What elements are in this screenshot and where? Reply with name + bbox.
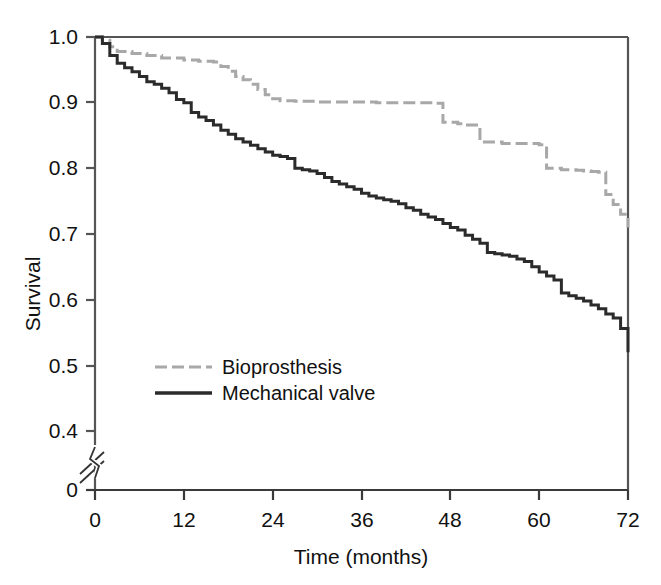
legend-label-bioprosthesis: Bioprosthesis xyxy=(222,356,342,379)
y-tick-label-0-7: 0.7 xyxy=(10,222,78,246)
legend-swatches xyxy=(155,367,212,393)
y-tick-label-0-5: 0.5 xyxy=(10,354,78,378)
x-tick-label-0: 0 xyxy=(65,508,125,532)
y-tick-label-0-8: 0.8 xyxy=(10,156,78,180)
legend-label-mechanical-valve: Mechanical valve xyxy=(222,382,375,405)
x-tick-marks xyxy=(95,490,628,500)
x-tick-label-72: 72 xyxy=(598,508,658,532)
y-tick-label-zero: 0 xyxy=(10,478,78,502)
x-tick-label-12: 12 xyxy=(154,508,214,532)
x-tick-label-48: 48 xyxy=(420,508,480,532)
x-axis-title: Time (months) xyxy=(261,545,461,569)
survival-chart-figure: 1.0 0.9 0.8 0.7 0.6 0.5 0.4 0 0 12 24 36… xyxy=(0,0,661,585)
series-layer xyxy=(95,37,628,352)
axis-break-symbol xyxy=(80,447,104,483)
series-line-mechanical-valve xyxy=(95,37,628,352)
y-tick-label-1-0: 1.0 xyxy=(10,25,78,49)
y-tick-label-0-9: 0.9 xyxy=(10,90,78,114)
series-line-bioprosthesis xyxy=(95,37,628,227)
axis-frame xyxy=(95,37,628,490)
x-tick-label-60: 60 xyxy=(509,508,569,532)
y-tick-label-0-4: 0.4 xyxy=(10,419,78,443)
y-tick-marks xyxy=(86,37,95,490)
x-tick-label-24: 24 xyxy=(243,508,303,532)
y-axis-title: Survival xyxy=(21,244,45,344)
x-tick-label-36: 36 xyxy=(332,508,392,532)
plot-canvas xyxy=(0,0,661,585)
